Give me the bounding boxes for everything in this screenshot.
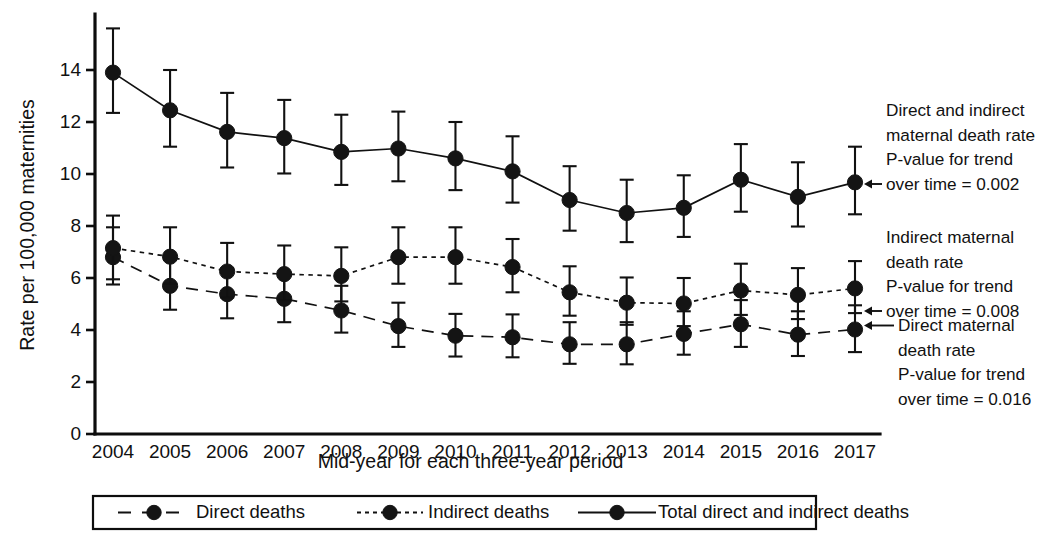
y-tick-label: 4 — [70, 319, 81, 340]
legend-marker — [610, 505, 624, 519]
total-annotation: Direct and indirectmaternal death rateP-… — [864, 100, 1035, 194]
data-point-marker[interactable] — [847, 175, 862, 190]
y-tick-label: 8 — [70, 215, 81, 236]
annotation-arrow-head — [864, 307, 872, 316]
annotation-line: P-value for trend — [886, 276, 1013, 296]
x-tick-label: 2014 — [663, 441, 706, 462]
y-tick-label: 10 — [60, 163, 81, 184]
data-point-marker[interactable] — [619, 205, 634, 220]
data-point-marker[interactable] — [676, 326, 691, 341]
data-point-marker[interactable] — [391, 319, 406, 334]
data-point-marker[interactable] — [562, 285, 577, 300]
series-direct-deaths — [105, 227, 862, 364]
annotation-line: P-value for trend — [898, 364, 1025, 384]
data-point-marker[interactable] — [619, 337, 634, 352]
data-point-marker[interactable] — [334, 303, 349, 318]
annotation-line: Direct and indirect — [886, 100, 1025, 120]
annotation-line: death rate — [886, 252, 963, 272]
y-tick-label: 0 — [70, 423, 81, 444]
data-point-marker[interactable] — [391, 141, 406, 156]
data-point-marker[interactable] — [847, 322, 862, 337]
data-point-marker[interactable] — [733, 172, 748, 187]
annotation-line: over time = 0.016 — [898, 389, 1031, 409]
x-axis-title: Mid-year for each three-year period — [318, 450, 624, 472]
data-point-marker[interactable] — [562, 337, 577, 352]
y-tick-label: 2 — [70, 371, 81, 392]
data-point-marker[interactable] — [448, 328, 463, 343]
data-point-marker[interactable] — [277, 267, 292, 282]
data-point-marker[interactable] — [448, 151, 463, 166]
data-point-marker[interactable] — [676, 296, 691, 311]
x-tick-label: 2005 — [149, 441, 191, 462]
annotation-line: Indirect maternal — [886, 227, 1014, 247]
data-point-marker[interactable] — [790, 287, 805, 302]
data-point-marker[interactable] — [619, 295, 634, 310]
figure-container: 02468101214Rate per 100,000 maternities … — [0, 0, 1059, 556]
maternal-death-rate-chart: 02468101214Rate per 100,000 maternities … — [0, 0, 1059, 556]
data-point-marker[interactable] — [505, 259, 520, 274]
chart-legend: Direct deathsIndirect deathsTotal direct… — [93, 496, 909, 529]
x-axis: 2004200520062007200820092010201120122013… — [92, 434, 880, 472]
data-series-group — [105, 28, 862, 364]
annotation-line: P-value for trend — [886, 149, 1013, 169]
data-point-marker[interactable] — [105, 241, 120, 256]
y-tick-label: 12 — [60, 111, 81, 132]
data-point-marker[interactable] — [562, 192, 577, 207]
annotation-line: maternal death rate — [886, 125, 1035, 145]
data-point-marker[interactable] — [847, 281, 862, 296]
indirect-annotation: Indirect maternaldeath rateP-value for t… — [864, 227, 1019, 321]
y-axis: 02468101214Rate per 100,000 maternities — [16, 14, 95, 444]
data-point-marker[interactable] — [790, 327, 805, 342]
x-tick-label: 2004 — [92, 441, 135, 462]
data-point-marker[interactable] — [505, 164, 520, 179]
series-indirect-deaths — [105, 216, 862, 327]
data-point-marker[interactable] — [334, 268, 349, 283]
series-total-direct-and-indirect-deaths — [105, 28, 862, 242]
data-point-marker[interactable] — [277, 131, 292, 146]
annotation-arrow-head — [864, 321, 872, 330]
data-point-marker[interactable] — [334, 144, 349, 159]
annotation-line: Direct maternal — [898, 315, 1015, 335]
data-point-marker[interactable] — [220, 264, 235, 279]
annotation-line: death rate — [898, 340, 975, 360]
data-point-marker[interactable] — [505, 330, 520, 345]
x-tick-label: 2017 — [834, 441, 876, 462]
legend-marker — [147, 505, 161, 519]
x-tick-label: 2006 — [206, 441, 248, 462]
data-point-marker[interactable] — [790, 189, 805, 204]
direct-annotation: Direct maternaldeath rateP-value for tre… — [864, 315, 1031, 409]
legend-label: Direct deaths — [196, 501, 305, 522]
legend-marker — [383, 505, 397, 519]
x-tick-label: 2007 — [263, 441, 305, 462]
legend-label: Total direct and indirect deaths — [658, 501, 909, 522]
data-point-marker[interactable] — [105, 65, 120, 80]
data-point-marker[interactable] — [162, 103, 177, 118]
data-point-marker[interactable] — [162, 249, 177, 264]
legend-label: Indirect deaths — [428, 501, 549, 522]
data-point-marker[interactable] — [448, 250, 463, 265]
data-point-marker[interactable] — [733, 317, 748, 332]
annotations-group: Direct and indirectmaternal death rateP-… — [864, 100, 1035, 409]
annotation-line: over time = 0.002 — [886, 174, 1019, 194]
x-tick-label: 2015 — [720, 441, 762, 462]
data-point-marker[interactable] — [220, 124, 235, 139]
data-point-marker[interactable] — [733, 283, 748, 298]
x-tick-label: 2016 — [777, 441, 819, 462]
data-point-marker[interactable] — [676, 200, 691, 215]
data-point-marker[interactable] — [391, 250, 406, 265]
y-tick-label: 14 — [60, 59, 82, 80]
annotation-arrow-head — [864, 180, 872, 189]
y-axis-title: Rate per 100,000 maternities — [16, 99, 38, 351]
y-tick-label: 6 — [70, 267, 81, 288]
